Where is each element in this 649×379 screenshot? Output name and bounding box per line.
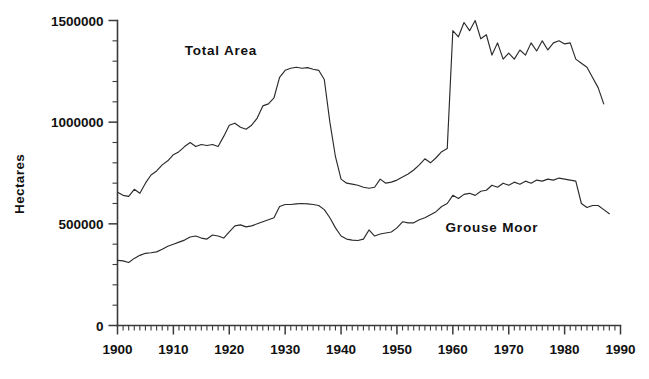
x-axis-tick-labels: 1900191019201930194019501960197019801990 [102, 342, 635, 357]
x-tick-label: 1920 [214, 342, 244, 357]
x-tick-label: 1930 [270, 342, 300, 357]
x-tick-label: 1940 [326, 342, 356, 357]
x-tick-label: 1980 [550, 342, 580, 357]
x-tick-label: 1910 [158, 342, 188, 357]
y-tick-label: 500000 [58, 217, 103, 232]
y-tick-label: 1500000 [51, 14, 104, 29]
x-tick-label: 1970 [494, 342, 524, 357]
y-axis-tick-labels: 050000010000001500000 [51, 14, 104, 334]
y-axis-ticks [109, 21, 118, 326]
series-label-grouse-moor: Grouse Moor [446, 220, 539, 235]
x-axis-ticks [118, 326, 621, 335]
line-chart-canvas: 050000010000001500000 190019101920193019… [0, 0, 649, 379]
series-annotations: Total AreaGrouse Moor [185, 43, 539, 235]
y-axis-title: Hectares [12, 154, 27, 214]
y-tick-label: 0 [96, 319, 104, 334]
chart-figure: 050000010000001500000 190019101920193019… [0, 0, 649, 379]
y-tick-label: 1000000 [51, 115, 104, 130]
x-tick-label: 1990 [605, 342, 635, 357]
x-tick-label: 1960 [438, 342, 468, 357]
axes: 050000010000001500000 190019101920193019… [51, 14, 636, 357]
x-tick-label: 1900 [102, 342, 132, 357]
series-label-total-area: Total Area [185, 43, 258, 58]
x-tick-label: 1950 [382, 342, 412, 357]
